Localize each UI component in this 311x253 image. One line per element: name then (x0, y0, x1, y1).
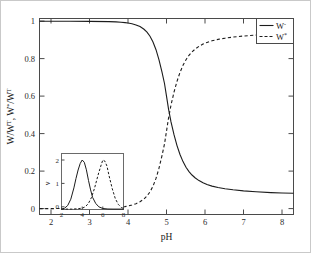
figure-panel: 2 3 4 5 6 7 8 0 0.2 0.4 0.6 0.8 1 pH W/W… (0, 0, 311, 253)
y-tick-label: 0.8 (24, 54, 35, 64)
svg-text:W/WT, W*/WT: W/WT, W*/WT (6, 88, 16, 144)
legend[interactable]: W- W* (257, 19, 294, 44)
x-tick-label: 2 (49, 217, 53, 227)
x-tick-labels: 2 3 4 5 6 7 8 (49, 217, 284, 227)
x-tick-label: 6 (203, 217, 207, 227)
legend-box (257, 19, 294, 44)
y-tick-label: 0.4 (24, 129, 35, 139)
inset-y-tick-label: 2 (56, 157, 60, 165)
inset-x-tick-label: 4 (80, 211, 84, 219)
x-tick-label: 5 (164, 217, 168, 227)
x-axis-title: pH (161, 232, 173, 242)
x-tick-label: 4 (126, 217, 131, 227)
inset-y-axis-title: ν (43, 181, 52, 185)
svg-text:ν: ν (43, 181, 52, 185)
chart-canvas: 2 3 4 5 6 7 8 0 0.2 0.4 0.6 0.8 1 pH W/W… (1, 1, 311, 253)
x-tick-label: 7 (241, 217, 245, 227)
inset-frame (62, 154, 124, 210)
inset-y-tick-labels: 0 1 2 (56, 157, 60, 212)
inset-x-tick-label: 2 (60, 211, 64, 219)
y-tick-label: 0.6 (24, 91, 35, 101)
x-tick-label: 8 (280, 217, 284, 227)
inset-x-tick-label: 8 (122, 211, 126, 219)
inset-x-tick-label: 6 (101, 211, 105, 219)
y-tick-label: 0 (31, 204, 35, 214)
inset-y-tick-label: 0 (56, 203, 60, 211)
y-tick-label: 1 (31, 16, 35, 26)
y-tick-label: 0.2 (24, 166, 35, 176)
y-axis-title: W/WT, W*/WT (6, 88, 16, 144)
inset-plot: 2 4 6 8 0 1 2 ν (43, 154, 126, 220)
y-tick-labels: 0 0.2 0.4 0.6 0.8 1 (24, 16, 35, 214)
inset-y-tick-label: 1 (56, 180, 60, 188)
x-tick-label: 3 (87, 217, 91, 227)
